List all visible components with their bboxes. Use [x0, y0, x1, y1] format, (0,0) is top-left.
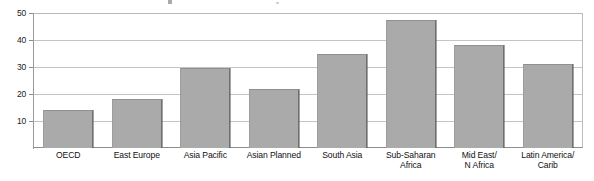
bar[interactable] [112, 99, 162, 148]
y-axis-tick-labels: 1020304050 [0, 0, 29, 181]
bar-chart: 1020304050 OECDEast EuropeAsia PacificAs… [0, 0, 594, 181]
bar[interactable] [317, 54, 367, 149]
y-tick-mark-50 [29, 13, 33, 14]
scan-artifact-icon [168, 0, 172, 4]
y-axis-label-30: 30 [17, 62, 26, 72]
y-tick-mark-10 [29, 121, 33, 122]
y-tick-mark-20 [29, 94, 33, 95]
x-axis-category-labels: OECDEast EuropeAsia PacificAsian Planned… [34, 150, 582, 181]
bar[interactable] [43, 110, 93, 148]
y-tick-mark-30 [29, 67, 33, 68]
x-axis-label: East Europe [103, 150, 172, 160]
scan-artifact-secondary-icon [276, 2, 279, 4]
x-axis-label: OECD [34, 150, 103, 160]
x-axis-label: Asia Pacific [171, 150, 240, 160]
bar[interactable] [454, 45, 504, 148]
x-axis-label: Sub-Saharan Africa [377, 150, 446, 170]
y-axis-label-20: 20 [17, 89, 26, 99]
x-axis-label: South Asia [308, 150, 377, 160]
y-axis-label-40: 40 [17, 35, 26, 45]
x-axis-label: Latin America/ Carib [514, 150, 583, 170]
x-axis-label: Mid East/ N Africa [445, 150, 514, 170]
bar[interactable] [249, 89, 299, 148]
y-tick-mark-40 [29, 40, 33, 41]
bar[interactable] [180, 68, 230, 148]
bar[interactable] [523, 64, 573, 148]
bar[interactable] [386, 20, 436, 148]
bars-layer [34, 14, 582, 148]
y-axis-label-10: 10 [17, 116, 26, 126]
y-axis-label-50: 50 [17, 8, 26, 18]
x-axis-label: Asian Planned [240, 150, 309, 160]
